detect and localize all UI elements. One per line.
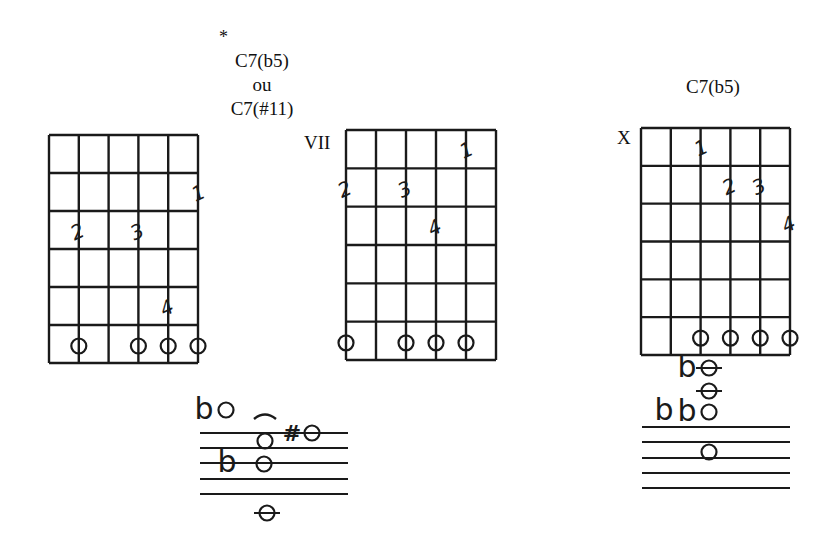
finger-number: 1	[690, 134, 712, 161]
finger-number: 3	[126, 218, 148, 245]
tie-mark	[254, 415, 276, 420]
finger-number: 4	[156, 294, 178, 321]
finger-number: 3	[394, 176, 416, 203]
finger-number: 2	[718, 173, 740, 200]
finger-number: 1	[188, 179, 210, 206]
note-head	[258, 434, 273, 449]
flat-sign: b	[677, 393, 696, 428]
flat-sign: b	[677, 349, 696, 384]
chord-diagrams-canvas: 123412341234bb#bbb	[0, 0, 838, 543]
sharp-sign: #	[283, 421, 301, 446]
diagram-2: 1234	[334, 130, 496, 360]
finger-number: 4	[778, 211, 800, 238]
flat-sign: b	[654, 392, 673, 427]
staff-1: bb#	[194, 391, 348, 521]
flat-sign: b	[194, 391, 213, 426]
diagram-3: 1234	[641, 128, 799, 355]
finger-number: 1	[456, 137, 478, 164]
finger-number: 4	[424, 214, 446, 241]
note-head	[702, 405, 717, 420]
finger-number: 2	[67, 218, 89, 245]
note-head	[219, 403, 234, 418]
finger-number: 2	[334, 176, 356, 203]
finger-number: 3	[748, 173, 770, 200]
diagram-1: 1234	[49, 135, 209, 363]
flat-sign: b	[217, 444, 236, 479]
